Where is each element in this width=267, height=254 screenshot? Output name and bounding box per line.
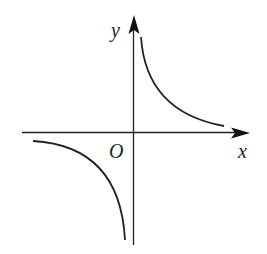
- y-axis-label: y: [109, 19, 120, 42]
- diagram-canvas: y O x: [0, 0, 267, 254]
- hyperbola-branch-upper: [141, 37, 224, 126]
- hyperbola-diagram: y O x: [0, 0, 267, 254]
- origin-label: O: [109, 140, 123, 162]
- x-axis-label: x: [237, 140, 247, 162]
